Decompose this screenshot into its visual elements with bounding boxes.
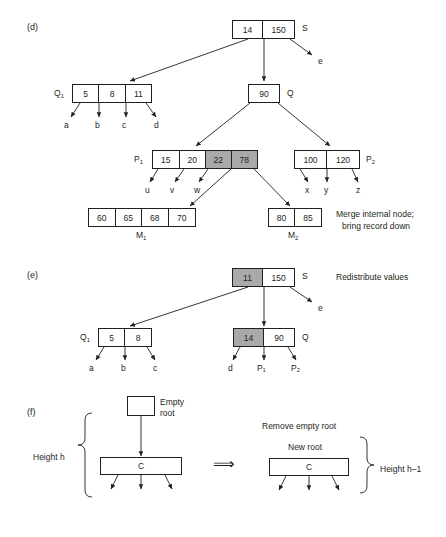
label-f-new-root: New root [288, 442, 322, 452]
label-e-Q1-sub: 1 [87, 337, 90, 343]
label-d-M2-sub: 2 [295, 235, 298, 241]
leaf-e-P1: P₁ [257, 363, 266, 373]
label-d-P2: P2 [366, 154, 375, 164]
label-d-M2: M2 [288, 230, 298, 240]
label-d-M1: M1 [136, 230, 146, 240]
note-f-remove-empty-root: Remove empty root [262, 421, 336, 431]
section-label-d: (d) [27, 22, 38, 32]
node-f-left-C: C [100, 457, 182, 475]
note-d-line1: Merge internal node; [336, 209, 414, 220]
leaf-d-v: v [170, 185, 174, 195]
leaf-d-u: u [145, 185, 150, 195]
cell-d-m1-3: 70 [169, 209, 195, 226]
leaf-d-z: z [356, 185, 360, 195]
cell-d-q-0: 90 [249, 85, 279, 102]
node-d-root-S: 14 150 [232, 20, 295, 39]
label-e-Q1: Q1 [80, 332, 90, 342]
label-d-P1-text: P [134, 154, 140, 164]
node-d-P1: 15 20 22 78 [152, 150, 258, 169]
leaf-e-P2: P₂ [291, 363, 300, 373]
implies-arrow-icon: ⟹ [213, 456, 235, 471]
cell-d-p2-0: 100 [295, 151, 327, 168]
leaf-d-c: c [122, 120, 126, 130]
leaf-d-a: a [64, 120, 69, 130]
node-d-M2: 80 85 [268, 208, 322, 227]
node-d-Q1: 5 8 11 [72, 84, 152, 103]
cell-d-p2-1: 120 [327, 151, 359, 168]
cell-d-p1-2: 22 [206, 151, 232, 168]
label-d-P1: P1 [134, 154, 143, 164]
node-d-M1: 60 65 68 70 [88, 208, 196, 227]
section-label-e: (e) [27, 270, 38, 280]
cell-d-p1-1: 20 [180, 151, 207, 168]
leaf-e-b: b [121, 363, 126, 373]
cell-d-m1-0: 60 [89, 209, 116, 226]
cell-e-q-0: 14 [234, 329, 264, 346]
cell-d-m2-1: 85 [295, 209, 321, 226]
leaf-e-a: a [89, 363, 94, 373]
leaf-d-y: y [324, 185, 328, 195]
leaf-e-e: e [318, 303, 323, 313]
label-d-P1-sub: 1 [140, 159, 143, 165]
cell-e-q1-1: 8 [125, 329, 151, 346]
label-d-Q: Q [287, 88, 294, 98]
leaf-d-e: e [318, 56, 323, 66]
leaf-d-b: b [95, 120, 100, 130]
node-d-Q: 90 [248, 84, 280, 103]
leaf-d-w: w [194, 185, 200, 195]
note-e: Redistribute values [336, 272, 408, 283]
label-f-height-h: Height h [33, 452, 65, 462]
cell-d-m1-2: 68 [142, 209, 169, 226]
label-d-P2-sub: 2 [372, 159, 375, 165]
node-d-P2: 100 120 [294, 150, 360, 169]
label-d-Q1: Q1 [54, 88, 64, 98]
cell-d-q1-0: 5 [73, 85, 99, 102]
label-e-root-S: S [302, 271, 308, 281]
label-d-Q1-sub: 1 [61, 93, 64, 99]
cell-e-q-1: 90 [264, 329, 294, 346]
label-d-M1-sub: 1 [143, 235, 146, 241]
node-f-right-C: C [269, 458, 349, 476]
cell-d-q1-2: 11 [126, 85, 151, 102]
leaf-d-x: x [305, 185, 309, 195]
node-f-empty-root [127, 396, 155, 416]
cell-d-p1-0: 15 [153, 151, 180, 168]
node-e-root-S: 11 150 [232, 268, 295, 287]
cell-d-root-1: 150 [263, 21, 294, 38]
node-e-Q: 14 90 [233, 328, 295, 347]
label-d-Q1-text: Q [54, 88, 61, 98]
cell-d-p1-3: 78 [232, 151, 258, 168]
cell-d-q1-1: 8 [99, 85, 125, 102]
cell-e-q1-0: 5 [99, 329, 125, 346]
label-d-root-S: S [302, 23, 308, 33]
leaf-e-c: c [153, 363, 157, 373]
label-f-height-h-minus-1: Height h–1 [380, 464, 421, 474]
label-e-Q1-text: Q [80, 332, 87, 342]
leaf-d-d: d [154, 120, 159, 130]
cell-d-m1-1: 65 [116, 209, 143, 226]
label-f-empty-root-line2: root [160, 408, 175, 418]
cell-e-root-1: 150 [263, 269, 294, 286]
cell-d-root-0: 14 [233, 21, 263, 38]
cell-e-root-0: 11 [233, 269, 263, 286]
node-e-Q1: 5 8 [98, 328, 152, 347]
section-label-f: (f) [27, 407, 36, 417]
note-d-line2: bring record down [342, 221, 410, 232]
label-d-P2-text: P [366, 154, 372, 164]
leaf-e-d: d [228, 363, 233, 373]
figure-canvas: (d) 14 150 S e 5 8 11 Q1 a b c d 90 Q 15… [0, 0, 446, 537]
label-f-empty-root-line1: Empty [160, 397, 184, 407]
cell-d-m2-0: 80 [269, 209, 295, 226]
label-e-Q: Q [302, 332, 309, 342]
